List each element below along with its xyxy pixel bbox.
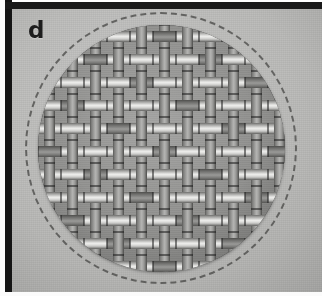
weave-strand-horizontal: [153, 261, 176, 272]
woven-mesh-pattern: [38, 25, 285, 272]
weave-strand-horizontal: [176, 146, 199, 157]
weave-strand-horizontal: [222, 100, 245, 111]
weave-strand-horizontal: [61, 77, 84, 88]
figure-plate: d: [12, 9, 322, 292]
weave-strand-vertical: [90, 25, 101, 48]
weave-strand-horizontal: [130, 192, 153, 203]
weave-strand-horizontal: [222, 146, 245, 157]
weave-strand-horizontal: [268, 100, 285, 111]
weave-strand-vertical: [136, 163, 147, 186]
frame-left-stroke: [5, 0, 12, 296]
weave-strand-vertical: [182, 255, 193, 272]
weave-strand-vertical: [182, 71, 193, 94]
weave-strand-horizontal: [268, 146, 285, 157]
weave-strand-horizontal: [245, 169, 268, 180]
weave-strand-horizontal: [199, 169, 222, 180]
weave-strand-horizontal: [61, 261, 84, 272]
weave-strand-vertical: [113, 232, 124, 255]
weave-strand-horizontal: [222, 192, 245, 203]
weave-strand-horizontal: [38, 238, 61, 249]
weave-strand-vertical: [228, 25, 239, 48]
weave-strand-horizontal: [61, 31, 84, 42]
weave-strand-horizontal: [153, 169, 176, 180]
weave-strand-vertical: [67, 186, 78, 209]
weave-strand-vertical: [274, 117, 285, 140]
weave-strand-vertical: [159, 94, 170, 117]
weave-strand-vertical: [274, 25, 285, 48]
weave-strand-horizontal: [38, 54, 61, 65]
weave-strand-horizontal: [153, 77, 176, 88]
weave-strand-vertical: [90, 163, 101, 186]
weave-strand-vertical: [44, 209, 55, 232]
weave-strand-vertical: [205, 94, 216, 117]
weave-strand-vertical: [90, 255, 101, 272]
figure-panel: d: [0, 0, 322, 296]
weave-strand-horizontal: [107, 215, 130, 226]
weave-strand-horizontal: [199, 77, 222, 88]
weave-strand-vertical: [182, 25, 193, 48]
weave-strand-vertical: [228, 71, 239, 94]
weave-strand-vertical: [274, 163, 285, 186]
weave-strand-horizontal: [245, 77, 268, 88]
weave-strand-horizontal: [268, 238, 285, 249]
weave-strand-vertical: [274, 255, 285, 272]
weave-strand-horizontal: [130, 100, 153, 111]
weave-strand-horizontal: [268, 54, 285, 65]
weave-strand-horizontal: [176, 100, 199, 111]
weave-strand-horizontal: [268, 192, 285, 203]
weave-strand-vertical: [274, 209, 285, 232]
weave-strand-horizontal: [84, 192, 107, 203]
weave-strand-horizontal: [38, 100, 61, 111]
weave-strand-vertical: [182, 163, 193, 186]
weave-strand-horizontal: [107, 123, 130, 134]
weave-strand-vertical: [67, 140, 78, 163]
weave-strand-vertical: [182, 117, 193, 140]
weave-strand-horizontal: [153, 123, 176, 134]
weave-strand-vertical: [113, 140, 124, 163]
weave-strand-vertical: [113, 186, 124, 209]
weave-strand-vertical: [136, 71, 147, 94]
weave-strand-vertical: [136, 25, 147, 48]
weave-strand-vertical: [205, 140, 216, 163]
weave-strand-vertical: [251, 94, 262, 117]
weave-strand-horizontal: [107, 77, 130, 88]
weave-strand-vertical: [205, 186, 216, 209]
weave-strand-horizontal: [107, 169, 130, 180]
weave-strand-vertical: [113, 48, 124, 71]
weave-strand-vertical: [90, 117, 101, 140]
weave-strand-horizontal: [130, 238, 153, 249]
weave-strand-vertical: [159, 232, 170, 255]
weave-strand-horizontal: [61, 169, 84, 180]
solid-sample-outline: [38, 25, 285, 272]
weave-strand-horizontal: [153, 31, 176, 42]
weave-strand-horizontal: [130, 146, 153, 157]
weave-strand-vertical: [251, 186, 262, 209]
weave-strand-vertical: [136, 117, 147, 140]
weave-strand-horizontal: [61, 123, 84, 134]
weave-strand-horizontal: [107, 261, 130, 272]
weave-strand-horizontal: [245, 31, 268, 42]
weave-strand-vertical: [44, 117, 55, 140]
weave-strand-vertical: [228, 117, 239, 140]
weave-strand-horizontal: [61, 215, 84, 226]
weave-strand-vertical: [228, 255, 239, 272]
weave-strand-vertical: [67, 48, 78, 71]
weave-strand-horizontal: [84, 146, 107, 157]
weave-strand-horizontal: [245, 215, 268, 226]
weave-strand-horizontal: [176, 54, 199, 65]
weave-strand-vertical: [228, 209, 239, 232]
weave-strand-vertical: [136, 209, 147, 232]
weave-strand-vertical: [113, 94, 124, 117]
weave-strand-horizontal: [199, 215, 222, 226]
weave-strand-vertical: [44, 163, 55, 186]
weave-strand-horizontal: [38, 146, 61, 157]
bottom-white-margin: [0, 292, 322, 296]
weave-strand-vertical: [136, 255, 147, 272]
weave-strand-vertical: [90, 209, 101, 232]
weave-strand-horizontal: [84, 238, 107, 249]
weave-strand-horizontal: [222, 238, 245, 249]
weave-strand-horizontal: [107, 31, 130, 42]
weave-strand-horizontal: [176, 192, 199, 203]
weave-strand-horizontal: [245, 261, 268, 272]
weave-strand-vertical: [44, 255, 55, 272]
